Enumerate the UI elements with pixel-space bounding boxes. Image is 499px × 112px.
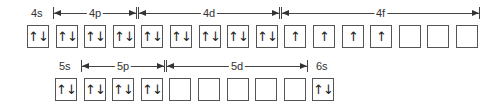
orbital-box-5p-1: ↑↓ [84,78,106,101]
orbital-box-5d-2 [198,78,220,101]
subshell-label-6s: 6s [314,60,330,72]
orbital-box-4d-1: ↑↓ [141,25,163,48]
orbital-box-4f-4: ↑ [370,25,392,48]
orbital-box-4f-7 [456,25,478,48]
arrow-left-icon [82,63,89,69]
orbital-box-5d-4 [255,78,277,101]
subshell-label-4f: 4f [374,7,387,19]
orbital-box-6s-1: ↑↓ [312,78,334,101]
orbital-box-4d-3: ↑↓ [199,25,221,48]
orbital-box-4f-6 [427,25,449,48]
arrow-left-icon [139,10,146,16]
subshell-bracket-4p: 4p [53,7,137,19]
orbital-box-4p-1: ↑↓ [56,25,78,48]
arrow-right-icon [129,10,136,16]
orbital-box-4f-1: ↑ [284,25,306,48]
orbital-box-5d-3 [227,78,249,101]
orbital-box-5d-1 [169,78,191,101]
subshell-bracket-4d: 4d [138,7,280,19]
orbital-box-4d-5: ↑↓ [256,25,278,48]
orbital-box-4p-2: ↑↓ [84,25,106,48]
orbital-box-5p-2: ↑↓ [112,78,134,101]
subshell-label-4p: 4p [87,7,103,19]
arrow-right-icon [157,63,164,69]
arrow-right-icon [272,10,279,16]
subshell-label-5d: 5d [229,60,245,72]
orbital-box-5s-1: ↑↓ [55,78,77,101]
orbital-box-4d-4: ↑↓ [227,25,249,48]
arrow-left-icon [167,63,174,69]
subshell-bracket-5d: 5d [166,60,308,72]
orbital-box-4f-2: ↑ [313,25,335,48]
orbital-box-4f-5 [399,25,421,48]
orbital-box-4f-3: ↑ [342,25,364,48]
arrow-left-icon [282,10,289,16]
orbital-box-4s-1: ↑↓ [27,25,49,48]
orbital-box-4d-2: ↑↓ [170,25,192,48]
arrow-right-icon [300,63,307,69]
subshell-label-4s: 4s [29,7,45,19]
orbital-box-4p-3: ↑↓ [113,25,135,48]
subshell-bracket-5p: 5p [81,60,165,72]
subshell-label-5p: 5p [115,60,131,72]
subshell-label-5s: 5s [57,60,73,72]
orbital-box-5d-5 [284,78,306,101]
arrow-left-icon [54,10,61,16]
subshell-label-4d: 4d [201,7,217,19]
subshell-bracket-4f: 4f [281,7,480,19]
arrow-right-icon [472,10,479,16]
orbital-box-5p-3: ↑↓ [141,78,163,101]
